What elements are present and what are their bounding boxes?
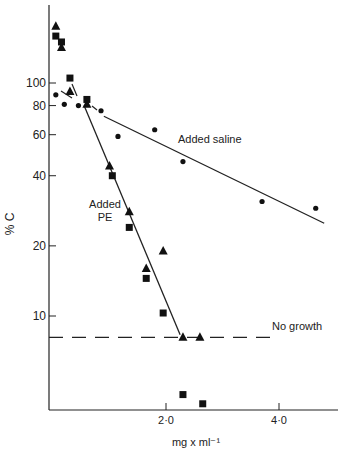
annotation-label: No growth bbox=[272, 320, 322, 332]
square-marker bbox=[126, 224, 133, 231]
triangle-marker bbox=[105, 161, 114, 170]
square-marker bbox=[58, 38, 65, 45]
circle-marker bbox=[62, 102, 67, 107]
y-tick-label: 20 bbox=[33, 239, 47, 253]
x-axis-title: mg x ml⁻¹ bbox=[172, 436, 221, 448]
chart: 10080604020102·04·0% Cmg x ml⁻¹ Added sa… bbox=[0, 0, 344, 453]
triangle-marker bbox=[159, 246, 168, 255]
axes: 10080604020102·04·0% Cmg x ml⁻¹ bbox=[3, 5, 338, 448]
annotation-label: Added bbox=[89, 198, 121, 210]
triangle-marker bbox=[195, 332, 204, 341]
circle-marker bbox=[180, 159, 185, 164]
y-tick-label: 10 bbox=[33, 309, 47, 323]
circle-marker bbox=[76, 103, 81, 108]
annotation-label: Added saline bbox=[178, 133, 242, 145]
x-tick-label: 2·0 bbox=[158, 414, 174, 426]
circle-marker bbox=[98, 108, 103, 113]
square-marker bbox=[160, 310, 167, 317]
square-marker bbox=[109, 172, 116, 179]
circle-marker bbox=[259, 199, 264, 204]
y-tick-label: 40 bbox=[33, 169, 47, 183]
fit-lines bbox=[49, 84, 324, 337]
triangle-marker bbox=[125, 207, 134, 216]
data-points bbox=[51, 21, 318, 407]
annotation-label: PE bbox=[98, 211, 113, 223]
y-tick-label: 100 bbox=[26, 76, 46, 90]
triangle-marker bbox=[51, 21, 60, 30]
square-marker bbox=[179, 391, 186, 398]
circle-marker bbox=[115, 134, 120, 139]
triangle-marker bbox=[142, 263, 151, 272]
connector-line bbox=[92, 106, 97, 110]
y-tick-label: 60 bbox=[33, 128, 47, 142]
circle-marker bbox=[313, 206, 318, 211]
circle-marker bbox=[53, 92, 58, 97]
square-marker bbox=[199, 400, 206, 407]
square-marker bbox=[83, 96, 90, 103]
annotations: Added salineAddedPENo growth bbox=[89, 133, 322, 332]
y-axis-title: % C bbox=[3, 212, 17, 235]
square-marker bbox=[143, 275, 150, 282]
y-tick-label: 80 bbox=[33, 99, 47, 113]
x-tick-label: 4·0 bbox=[271, 414, 287, 426]
circle-marker bbox=[152, 127, 157, 132]
square-marker bbox=[66, 75, 73, 82]
